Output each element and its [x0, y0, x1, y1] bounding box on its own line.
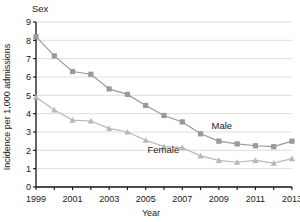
chart-title: Sex [32, 3, 49, 14]
y-tick-label: 1 [26, 164, 31, 174]
x-tick-label: 2003 [99, 194, 119, 204]
data-point-marker [271, 144, 276, 149]
y-tick-label: 7 [26, 54, 31, 64]
series-label-female: Female [148, 144, 180, 155]
data-point-marker [216, 139, 221, 144]
x-axis-title: Year [142, 208, 160, 218]
x-tick-label: 1999 [26, 194, 46, 204]
x-tick-label: 2009 [209, 194, 229, 204]
x-tick-label: 2005 [136, 194, 156, 204]
y-tick-label: 9 [26, 17, 31, 27]
data-point-marker [70, 69, 75, 74]
data-point-marker [198, 131, 203, 136]
data-point-marker [143, 103, 148, 108]
data-point-marker [125, 92, 130, 97]
y-tick-label: 0 [26, 182, 31, 192]
x-tick-label: 2013 [282, 194, 300, 204]
x-tick-label: 2007 [172, 194, 192, 204]
y-tick-label: 6 [26, 72, 31, 82]
data-point-marker [289, 139, 294, 144]
y-tick-label: 2 [26, 146, 31, 156]
y-tick-label: 4 [26, 109, 31, 119]
data-point-marker [107, 86, 112, 91]
y-tick-label: 3 [26, 127, 31, 137]
data-point-marker [88, 72, 93, 77]
data-point-marker [180, 119, 185, 124]
data-point-marker [52, 53, 57, 58]
data-point-marker [161, 113, 166, 118]
data-point-marker [253, 143, 258, 148]
series-label-male: Male [212, 120, 233, 131]
y-axis-title: Incidence per 1,000 admissions [2, 43, 12, 170]
data-point-marker [235, 141, 240, 146]
x-tick-label: 2001 [63, 194, 83, 204]
data-point-marker [33, 34, 38, 39]
y-tick-label: 5 [26, 91, 31, 101]
x-tick-label: 2011 [246, 194, 265, 204]
y-tick-label: 8 [26, 36, 31, 46]
line-chart-svg: 0123456789 19992001200320052007200920112… [0, 0, 300, 222]
chart-container: 0123456789 19992001200320052007200920112… [0, 0, 300, 222]
